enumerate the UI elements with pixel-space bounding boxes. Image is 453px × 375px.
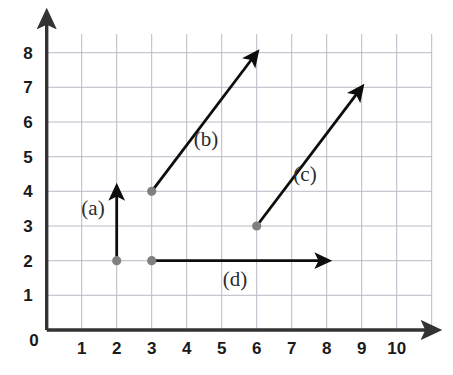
vector-a-tail-dot [112,256,121,265]
origin-tick-label-0: 0 [24,332,44,349]
x-tick-label-10: 10 [384,340,410,357]
y-tick-label-6: 6 [18,114,38,131]
x-tick-label-9: 9 [352,340,372,357]
vector-b-tail-dot [147,187,156,196]
vector-label-d: (d) [215,269,255,290]
x-tick-label-5: 5 [212,340,232,357]
vector-c-tail-dot [252,221,261,230]
x-tick-label-1: 1 [72,340,92,357]
y-tick-label-2: 2 [18,253,38,270]
vector-a [112,195,121,266]
plot-area [0,0,453,375]
x-tick-label-7: 7 [282,340,302,357]
x-tick-label-8: 8 [317,340,337,357]
y-tick-label-3: 3 [18,218,38,235]
vector-label-c: (c) [285,164,325,185]
x-tick-label-4: 4 [177,340,197,357]
vector-d-tail-dot [147,256,156,265]
x-tick-label-2: 2 [107,340,127,357]
y-tick-label-8: 8 [18,45,38,62]
vector-label-b: (b) [186,129,226,150]
vector-d [147,256,320,265]
grid-horizontal-lines [47,53,432,296]
y-tick-label-4: 4 [18,183,38,200]
vector-b-shaft [152,59,253,192]
vector-diagram-figure: 8 7 6 5 4 3 2 1 0 1 2 3 4 5 6 7 8 9 10 (… [0,0,453,375]
x-tick-label-6: 6 [247,340,267,357]
vector-label-a: (a) [73,198,113,219]
y-tick-label-5: 5 [18,149,38,166]
y-tick-label-7: 7 [18,79,38,96]
vector-c-shaft [257,93,358,226]
x-tick-label-3: 3 [142,340,162,357]
grid-vertical-lines [82,34,432,330]
y-tick-label-1: 1 [18,287,38,304]
